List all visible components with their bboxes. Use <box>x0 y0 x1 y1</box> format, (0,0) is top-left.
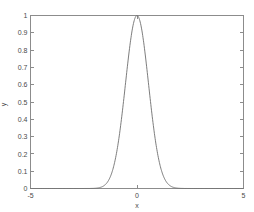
x-axis-title: x <box>135 202 139 209</box>
x-tick-label-0: -5 <box>27 192 33 199</box>
tick-marks-group <box>31 16 244 189</box>
data-curve-group <box>31 16 244 189</box>
y-tick-label-4: 0.4 <box>18 116 28 123</box>
y-tick-label-0: 0 <box>24 185 28 192</box>
y-tick-label-2: 0.2 <box>18 151 28 158</box>
x-tick-label-1: 0 <box>135 192 139 199</box>
y-axis-title: y <box>1 102 9 106</box>
y-tick-label-10: 1 <box>24 12 28 19</box>
figure-container: -50500.10.20.30.40.50.60.70.80.91 xy <box>0 0 254 212</box>
plot-canvas: -50500.10.20.30.40.50.60.70.80.91 xy <box>0 0 254 212</box>
axes-frame <box>31 16 244 189</box>
y-tick-label-5: 0.5 <box>18 99 28 106</box>
y-tick-label-1: 0.1 <box>18 168 28 175</box>
y-tick-label-7: 0.7 <box>18 64 28 71</box>
axes-box <box>31 16 244 189</box>
y-tick-label-6: 0.6 <box>18 81 28 88</box>
gaussian-curve <box>31 16 244 189</box>
y-tick-label-9: 0.9 <box>18 29 28 36</box>
tick-labels-group: -50500.10.20.30.40.50.60.70.80.91 <box>18 12 246 198</box>
x-tick-label-2: 5 <box>242 192 246 199</box>
y-tick-label-8: 0.8 <box>18 47 28 54</box>
y-tick-label-3: 0.3 <box>18 133 28 140</box>
